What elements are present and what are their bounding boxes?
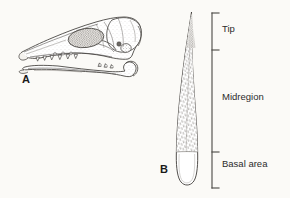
figure-container: A: [0, 0, 290, 198]
midregion-texture: [170, 12, 204, 154]
zone-label-basal-area: Basal area: [222, 158, 267, 169]
zone-bracket: [212, 13, 219, 188]
zone-label-tip: Tip: [222, 23, 235, 34]
panel-label-b: B: [160, 163, 168, 175]
zone-label-midregion: Midregion: [222, 91, 264, 102]
tip-texture: [180, 10, 200, 52]
